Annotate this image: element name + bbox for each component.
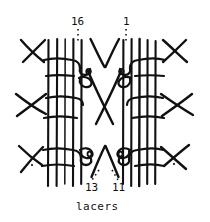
right-weavers-group [127, 59, 165, 167]
callout-label-11: 11 [112, 182, 125, 193]
caption-lacers: lacers [76, 201, 119, 212]
lacer-diagonal-b-upper [106, 39, 120, 67]
knot-top-right-loop [118, 77, 131, 87]
callout-label-16: 16 [71, 16, 84, 27]
weave-diagram [0, 0, 210, 222]
stray-dot-right [173, 163, 175, 165]
callout-label-1: 1 [123, 16, 130, 27]
lacer-diagonal-b-lower [106, 146, 119, 177]
figure-canvas: 16 1 13 11 lacers [0, 0, 210, 222]
weaver-left-row3-lower [42, 165, 74, 167]
stray-dot-left [31, 164, 33, 166]
edge-lacer-bot-right-b [164, 145, 189, 166]
callout-label-13: 13 [85, 182, 98, 193]
left-edge-crossings [16, 40, 46, 172]
knot-bottom-left-eye [88, 152, 92, 157]
lacer-diagonal-a-lower [92, 146, 106, 177]
weaver-left-row2-lower [44, 117, 77, 119]
weaver-right-row1-lower [135, 75, 164, 76]
knot-bottom-right-eye [119, 152, 123, 157]
lacer-diagonal-a-upper [91, 39, 105, 67]
weaver-left-row1-lower [46, 75, 74, 76]
knot-top-left-loop [79, 77, 92, 87]
weaver-right-row3-lower [135, 165, 164, 167]
